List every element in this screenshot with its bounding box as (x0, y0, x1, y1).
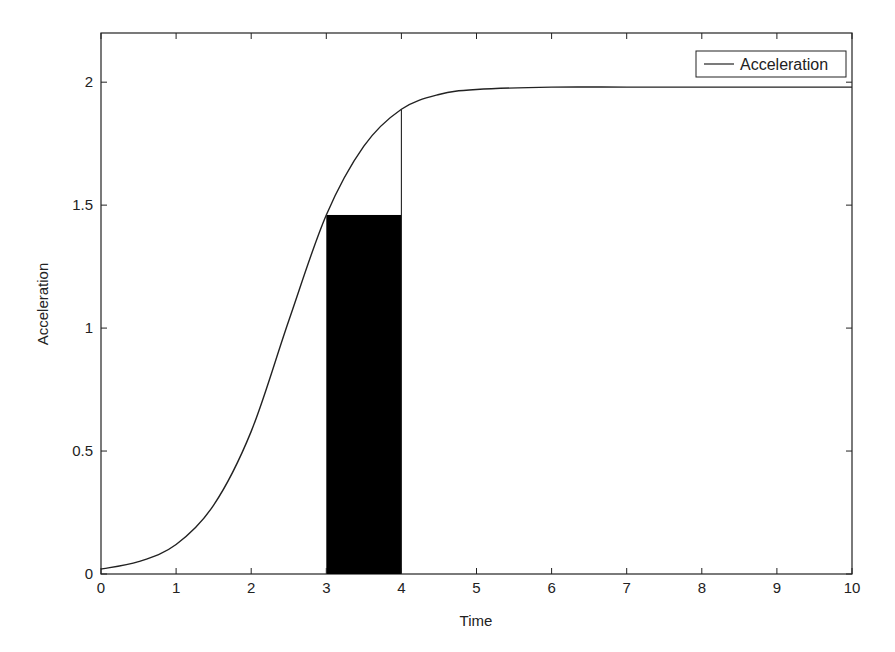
legend-label: Acceleration (740, 56, 828, 73)
x-tick-label: 10 (844, 579, 861, 596)
x-tick-label: 3 (322, 579, 330, 596)
y-tick-label: 0 (85, 565, 93, 582)
x-tick-label: 9 (773, 579, 781, 596)
highlight-rectangle (326, 215, 401, 574)
chart-canvas: 012345678910 00.511.52 Time Acceleration… (0, 0, 895, 652)
plot-border (101, 33, 852, 574)
x-axis-ticks: 012345678910 (97, 33, 861, 596)
x-tick-label: 0 (97, 579, 105, 596)
x-tick-label: 4 (397, 579, 405, 596)
y-tick-label: 1 (85, 319, 93, 336)
series-line-acceleration (101, 87, 852, 569)
plot-frame (101, 33, 852, 574)
x-tick-label: 1 (172, 579, 180, 596)
y-tick-label: 1.5 (72, 196, 93, 213)
x-tick-label: 2 (247, 579, 255, 596)
series-lines (101, 87, 852, 569)
y-tick-label: 0.5 (72, 442, 93, 459)
y-tick-label: 2 (85, 73, 93, 90)
x-tick-label: 8 (698, 579, 706, 596)
y-axis-label: Acceleration (34, 263, 51, 346)
x-tick-label: 5 (472, 579, 480, 596)
annotations (326, 109, 401, 574)
legend: Acceleration (696, 51, 846, 77)
y-axis-ticks: 00.511.52 (72, 73, 852, 582)
x-tick-label: 7 (623, 579, 631, 596)
x-tick-label: 6 (547, 579, 555, 596)
x-axis-label: Time (460, 612, 493, 629)
